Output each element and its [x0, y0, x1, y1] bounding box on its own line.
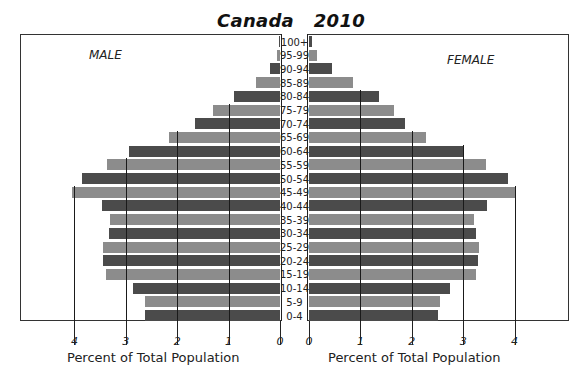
x-axis-title-female: Percent of Total Population: [328, 350, 501, 365]
bar-male-5-9: [145, 296, 280, 307]
age-label: 55-59: [279, 160, 310, 171]
age-label: 25-29: [279, 242, 310, 253]
age-label: 30-34: [279, 228, 310, 239]
bar-female-15-19: [309, 269, 476, 280]
bar-female-85-89: [309, 77, 353, 88]
age-label: 95-99: [279, 50, 310, 61]
gridline-female-1: [360, 90, 361, 345]
gridline-male-2: [177, 131, 178, 345]
gridline-female-3: [463, 145, 464, 345]
gridline-female-2: [412, 131, 413, 345]
bar-male-75-79: [213, 105, 280, 116]
bar-male-35-39: [110, 214, 280, 225]
tick-label-female: 4: [505, 335, 525, 348]
tick-label-male: 2: [167, 335, 187, 348]
gridline-male-1: [229, 104, 230, 346]
bar-male-20-24: [103, 255, 280, 266]
age-label: 65-69: [279, 132, 310, 143]
bar-female-70-74: [309, 118, 405, 129]
bar-male-10-14: [133, 283, 280, 294]
gridline-male-3: [126, 158, 127, 345]
bar-female-0-4: [309, 310, 438, 321]
bar-male-85-89: [256, 77, 280, 88]
bar-female-55-59: [309, 159, 486, 170]
tick-label-female: 3: [453, 335, 473, 348]
tick-label-male: 0: [270, 335, 290, 348]
bar-male-80-84: [234, 91, 280, 102]
tick-label-female: 2: [402, 335, 422, 348]
age-label: 85-89: [279, 78, 310, 89]
bar-male-65-69: [169, 132, 280, 143]
age-label: 80-84: [279, 91, 310, 102]
bar-female-35-39: [309, 214, 474, 225]
male-label: MALE: [89, 48, 122, 62]
bar-male-15-19: [106, 269, 280, 280]
age-label: 10-14: [279, 283, 310, 294]
bar-male-0-4: [145, 310, 280, 321]
bar-female-95-99: [309, 50, 317, 61]
age-label: 50-54: [279, 174, 310, 185]
bar-female-65-69: [309, 132, 426, 143]
age-label: 0-4: [279, 311, 310, 322]
age-label: 75-79: [279, 105, 310, 116]
bar-female-20-24: [309, 255, 478, 266]
tick-label-female: 1: [350, 335, 370, 348]
bar-female-40-44: [309, 200, 487, 211]
bar-male-60-64: [129, 146, 280, 157]
bar-female-50-54: [309, 173, 508, 184]
bar-female-75-79: [309, 105, 394, 116]
bar-female-80-84: [309, 91, 379, 102]
age-label: 70-74: [279, 119, 310, 130]
bar-male-45-49: [72, 187, 280, 198]
age-label: 60-64: [279, 146, 310, 157]
chart-title: Canada 2010: [0, 10, 582, 31]
age-label: 35-39: [279, 215, 310, 226]
bar-male-25-29: [103, 242, 280, 253]
bar-female-25-29: [309, 242, 479, 253]
x-axis-title-male: Percent of Total Population: [67, 350, 240, 365]
bar-male-40-44: [102, 200, 280, 211]
tick-label-male: 3: [116, 335, 136, 348]
age-label: 100+: [279, 37, 310, 48]
female-label: FEMALE: [447, 53, 494, 67]
bar-female-90-94: [309, 63, 332, 74]
tick-label-male: 4: [64, 335, 84, 348]
bar-male-30-34: [109, 228, 280, 239]
tick-label-female: 0: [299, 335, 319, 348]
tick-label-male: 1: [219, 335, 239, 348]
age-label: 5-9: [279, 297, 310, 308]
bar-male-55-59: [107, 159, 280, 170]
bar-female-5-9: [309, 296, 440, 307]
bar-female-60-64: [309, 146, 463, 157]
age-label: 15-19: [279, 269, 310, 280]
age-label: 20-24: [279, 256, 310, 267]
bar-female-30-34: [309, 228, 476, 239]
age-label: 45-49: [279, 187, 310, 198]
bar-male-50-54: [82, 173, 280, 184]
age-label: 90-94: [279, 64, 310, 75]
bar-male-70-74: [195, 118, 280, 129]
age-label: 40-44: [279, 201, 310, 212]
bar-female-10-14: [309, 283, 450, 294]
